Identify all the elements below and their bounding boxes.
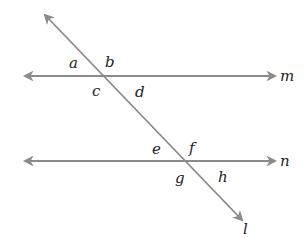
angle-c-label: c <box>92 82 101 100</box>
line-l-label: l <box>243 220 248 238</box>
angle-b-label: b <box>105 53 115 71</box>
angle-g-label: g <box>175 169 185 187</box>
transversal-l <box>45 15 242 220</box>
angle-a-label: a <box>69 54 78 72</box>
angle-e-label: e <box>152 140 161 158</box>
angle-h-label: h <box>218 168 228 186</box>
angle-d-label: d <box>135 83 145 101</box>
line-n-label: n <box>280 152 290 170</box>
line-m-label: m <box>280 67 294 85</box>
angle-f-label: f <box>188 139 197 157</box>
parallel-lines-transversal-diagram: m n l a b c d e f g h <box>0 0 306 238</box>
